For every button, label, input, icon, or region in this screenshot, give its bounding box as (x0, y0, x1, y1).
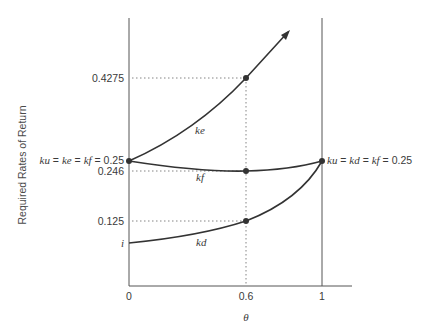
left-equality-note: ku = ke = kf = 0.25 (40, 154, 125, 166)
point-right-025 (319, 158, 325, 164)
x-tick-1: 1 (319, 290, 325, 302)
label-kd: kd (196, 236, 207, 248)
x-tick-0: 0 (126, 290, 132, 302)
curve-kf (129, 161, 322, 171)
y-axis-title: Required Rates of Return (16, 105, 28, 224)
curve-kd (129, 161, 322, 243)
label-kf: kf (196, 171, 206, 183)
chart-canvas: 0.4275 0.246 0.125 i ku = ke = kf = 0.25… (0, 0, 432, 335)
point-ke-06 (243, 75, 249, 81)
y-tick-246: 0.246 (98, 165, 124, 177)
right-equality-note: ku = kd = kf = 0.25 (327, 154, 412, 166)
y-tick-4275: 0.4275 (92, 72, 124, 84)
point-kd-06 (243, 218, 249, 224)
y-tick-i: i (121, 237, 124, 249)
y-tick-125: 0.125 (98, 215, 124, 227)
label-ke: ke (195, 124, 205, 136)
point-kf-06 (243, 168, 249, 174)
x-tick-06: 0.6 (239, 290, 254, 302)
point-left-025 (126, 158, 132, 164)
x-axis-title: θ (243, 311, 249, 323)
curve-ke (129, 32, 288, 161)
